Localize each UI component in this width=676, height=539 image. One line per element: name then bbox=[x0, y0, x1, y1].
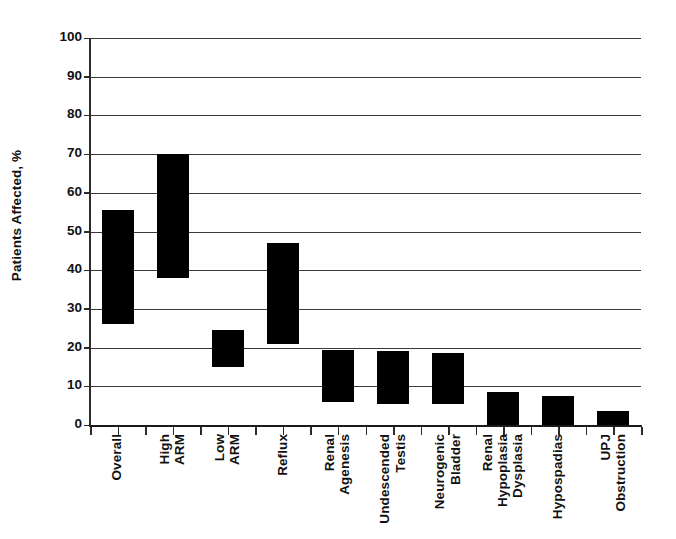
x-axis-label-renal-agenesis: RenalAgenesis bbox=[321, 434, 355, 538]
y-tick-label-70: 70 bbox=[34, 145, 82, 160]
gridline-90 bbox=[90, 77, 641, 78]
x-axis-label-high-arm: HighARM bbox=[156, 434, 190, 538]
x-axis-label-line: Neurogenic bbox=[433, 434, 447, 509]
x-axis-label-line: Overall bbox=[110, 434, 124, 480]
bar-low-arm bbox=[212, 330, 244, 367]
gridline-30 bbox=[90, 309, 641, 310]
bar-reflux bbox=[267, 243, 299, 344]
x-axis-label-hypospadias: Hypospadias bbox=[550, 434, 567, 538]
bar-renal-hypoplasia-dysplasia bbox=[487, 392, 519, 425]
y-axis-title-text: Patients Affected, % bbox=[10, 149, 25, 280]
x-axis-label-line: Hypoplasia bbox=[496, 434, 510, 507]
x-tick-boundary-4 bbox=[310, 427, 312, 435]
x-axis-label-line: Low bbox=[213, 434, 227, 461]
x-axis-label-line: ARM bbox=[228, 434, 242, 465]
x-axis-label-line: ARM bbox=[173, 434, 187, 465]
x-tick-boundary-1 bbox=[145, 427, 147, 435]
y-tick-label-30: 30 bbox=[34, 300, 82, 315]
x-axis-label-overall: Overall bbox=[109, 434, 126, 538]
x-tick-boundary-0 bbox=[90, 427, 92, 435]
x-tick-boundary-2 bbox=[200, 427, 202, 435]
x-axis-label-line: Renal bbox=[323, 434, 337, 471]
bar-undescended-testis bbox=[377, 351, 409, 403]
bar-overall bbox=[102, 210, 134, 324]
x-axis-label-line: High bbox=[158, 434, 172, 464]
x-axis-label-line: Dysplasia bbox=[511, 434, 525, 498]
x-tick-boundary-6 bbox=[421, 427, 423, 435]
y-tick-label-80: 80 bbox=[34, 106, 82, 121]
y-tick-label-0: 0 bbox=[34, 416, 82, 431]
bar-neurogenic-bladder bbox=[432, 353, 464, 403]
gridline-80 bbox=[90, 115, 641, 116]
x-tick-boundary-8 bbox=[531, 427, 533, 435]
x-axis-label-line: Obstruction bbox=[614, 434, 628, 512]
y-tick-label-20: 20 bbox=[34, 339, 82, 354]
gridline-20 bbox=[90, 348, 641, 349]
x-axis-label-line: Undescended bbox=[378, 434, 392, 524]
x-axis-label-renal-hypoplasia-dysplasia: RenalHypoplasiaDysplasia bbox=[478, 434, 529, 538]
plot-area bbox=[90, 38, 641, 425]
x-tick-boundary-5 bbox=[366, 427, 368, 435]
y-tick-label-60: 60 bbox=[34, 184, 82, 199]
x-axis-label-neurogenic-bladder: NeurogenicBladder bbox=[431, 434, 465, 538]
x-axis-label-undescended-testis: UndescendedTestis bbox=[376, 434, 410, 538]
x-axis-label-line: UPJ bbox=[599, 434, 613, 461]
x-axis-label-line: Renal bbox=[481, 434, 495, 471]
bar-hypospadias bbox=[542, 396, 574, 425]
chart-container: Patients Affected, % 1009080706050403020… bbox=[0, 0, 676, 539]
x-tick-boundary-9 bbox=[586, 427, 588, 435]
x-axis-label-line: Testis bbox=[394, 434, 408, 473]
y-tick-label-40: 40 bbox=[34, 261, 82, 276]
gridline-100 bbox=[90, 38, 641, 39]
x-axis-label-line: Reflux bbox=[276, 434, 290, 476]
x-axis-label-line: Hypospadias bbox=[551, 434, 565, 519]
y-axis-title: Patients Affected, % bbox=[0, 0, 34, 430]
y-tick-label-100: 100 bbox=[34, 29, 82, 44]
gridline-10 bbox=[90, 386, 641, 387]
bar-renal-agenesis bbox=[322, 350, 354, 402]
x-tick-boundary-3 bbox=[255, 427, 257, 435]
y-tick-label-90: 90 bbox=[34, 68, 82, 83]
bar-upj-obstruction bbox=[597, 411, 629, 425]
y-tick-label-50: 50 bbox=[34, 223, 82, 238]
x-axis-label-line: Agenesis bbox=[338, 434, 352, 495]
x-axis-label-line: Bladder bbox=[449, 434, 463, 485]
x-axis-label-reflux: Reflux bbox=[274, 434, 291, 538]
x-tick-boundary-10 bbox=[641, 427, 643, 435]
x-axis-label-low-arm: LowARM bbox=[211, 434, 245, 538]
y-tick-label-10: 10 bbox=[34, 377, 82, 392]
x-axis-label-upj-obstruction: UPJObstruction bbox=[596, 434, 630, 538]
bar-high-arm bbox=[157, 154, 189, 278]
